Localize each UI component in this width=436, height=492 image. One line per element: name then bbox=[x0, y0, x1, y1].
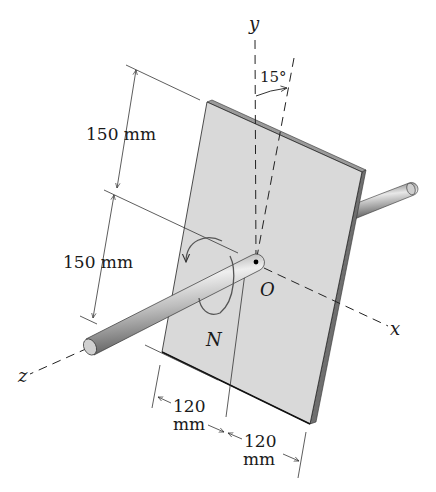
y-axis-label: y bbox=[248, 13, 260, 34]
moment-label: N bbox=[205, 329, 223, 350]
origin-point bbox=[254, 260, 259, 265]
left-width-unit: mm bbox=[173, 414, 205, 434]
origin-label: O bbox=[260, 279, 275, 300]
z-axis-label: z bbox=[17, 365, 28, 386]
diagram-canvas: y 15° x z O N 150 mm 150 mm 120 mm 120 m… bbox=[0, 0, 436, 492]
right-width-value: 120 bbox=[244, 431, 276, 451]
angle-label: 15° bbox=[260, 68, 287, 86]
upper-height-dimension: 150 mm bbox=[86, 124, 156, 144]
lower-height-dimension: 150 mm bbox=[63, 252, 133, 272]
left-width-value: 120 bbox=[173, 396, 205, 416]
right-width-unit: mm bbox=[243, 449, 275, 469]
x-axis-label: x bbox=[390, 318, 400, 339]
z-axis bbox=[30, 348, 88, 374]
angle-arc bbox=[256, 88, 287, 96]
